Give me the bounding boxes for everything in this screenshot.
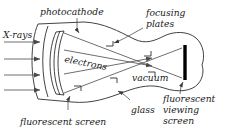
photocathode-cap-bottom: [56, 94, 64, 95]
xray-beam-group: [4, 42, 40, 90]
label-viewing-screen-line3: screen: [163, 115, 194, 126]
label-focusing-plates-line2: plates: [146, 18, 174, 29]
label-photocathode: photocathode: [40, 6, 104, 17]
label-glass: glass: [131, 104, 155, 115]
envelope-left-face: [32, 24, 38, 99]
photocathode-arc-inner: [54, 31, 60, 95]
envelope-inner-wall: [43, 26, 48, 97]
label-focusing-plates-line1: focusing: [145, 7, 186, 18]
focusing-plate-bottom-right: [110, 78, 117, 83]
label-xrays: X-rays: [2, 29, 32, 40]
photocathode-assembly: [50, 31, 64, 95]
xray-intensifier-diagram: photocathode X-rays focusing plates elec…: [0, 0, 229, 135]
envelope-top-contour: [38, 22, 204, 65]
diagram-canvas: photocathode X-rays focusing plates elec…: [0, 0, 229, 135]
fluorescent-screen-arc: [50, 32, 56, 94]
label-vacuum: vacuum: [132, 72, 169, 83]
label-fluorescent-screen: fluorescent screen: [19, 116, 106, 127]
label-electrons: electrons: [64, 53, 109, 72]
leader-photocathode: [77, 18, 79, 33]
focusing-plate-top-right: [144, 51, 151, 56]
label-viewing-screen-line1: fluorescent: [162, 93, 216, 104]
photocathode-cap-top: [56, 31, 64, 32]
focusing-plate-top-left: [106, 41, 113, 46]
leader-fluorescent-screen: [68, 96, 70, 110]
label-viewing-screen-line2: viewing: [163, 104, 199, 115]
